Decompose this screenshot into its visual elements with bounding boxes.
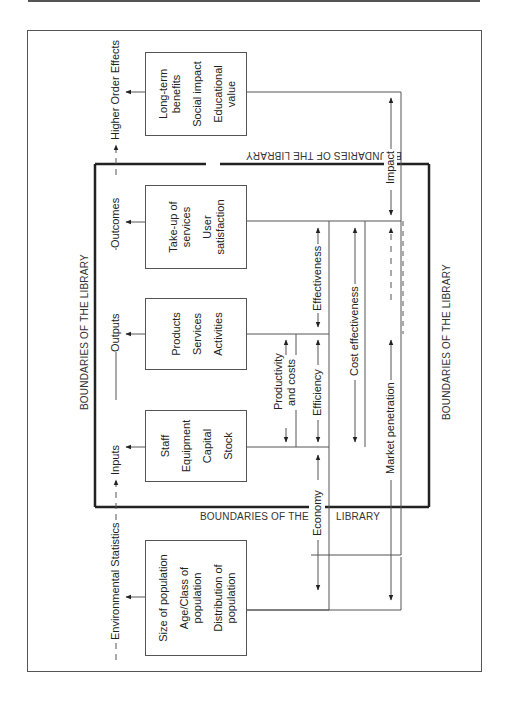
label-higher-order: Higher Order Effects — [109, 40, 122, 140]
population-item-2: Age/Class of population — [178, 542, 204, 654]
outputs-box-text: Products Services Activities — [147, 300, 247, 368]
outputs-item-3: Activities — [212, 312, 225, 355]
outputs-item-2: Services — [191, 312, 204, 355]
outcomes-item-2: User satisfaction — [201, 187, 227, 267]
label-market-penetration: Market penetration — [384, 380, 397, 476]
inputs-item-4: Stock — [222, 420, 235, 473]
higher-item-3: Educational value — [212, 54, 238, 134]
label-environmental: Environmental Statistics — [109, 523, 122, 640]
boundary-label-bottom-1: BOUNDARIES OF THE — [200, 511, 309, 522]
population-box-text: Size of population Age/Class of populati… — [147, 542, 247, 654]
population-item-1: Size of population — [157, 542, 170, 654]
inputs-box-text: Staff Equipment Capital Stock — [147, 412, 247, 480]
label-outputs: Outputs — [109, 313, 122, 352]
boundary-label-bottom-2: LIBRARY — [336, 511, 380, 522]
label-inputs: Inputs — [109, 445, 122, 475]
label-effectiveness: Effectiveness — [311, 244, 324, 313]
boundary-label-top: BOUNDARIES OF THE LIBRARY — [246, 150, 402, 161]
productivity-text: Productivity and costs — [272, 353, 297, 410]
inputs-item-3: Capital — [201, 420, 214, 473]
label-productivity: Productivity and costs — [272, 355, 298, 410]
population-item-3: Distribution of population — [212, 542, 238, 654]
higher-item-1: Long-term benefits — [157, 54, 183, 134]
inputs-item-1: Staff — [159, 420, 172, 473]
boundary-label-left: BOUNDARIES OF THE LIBRARY — [78, 254, 91, 410]
outputs-item-1: Products — [170, 312, 183, 355]
outcomes-item-1: Take-up of services — [167, 187, 193, 267]
label-economy: Economy — [311, 488, 324, 538]
boundary-label-right: BOUNDARIES OF THE LIBRARY — [440, 264, 453, 420]
label-efficiency: Efficiency — [311, 367, 324, 418]
label-outcomes: Outcomes — [109, 198, 122, 248]
label-impact: Impact — [384, 149, 397, 186]
inputs-item-2: Equipment — [180, 420, 193, 473]
outcomes-box-text: Take-up of services User satisfaction — [147, 187, 247, 267]
label-cost-effectiveness: Cost effectiveness — [348, 284, 361, 378]
higher-item-2: Social impact — [191, 54, 204, 134]
higher-order-box-text: Long-term benefits Social impact Educati… — [147, 54, 247, 134]
